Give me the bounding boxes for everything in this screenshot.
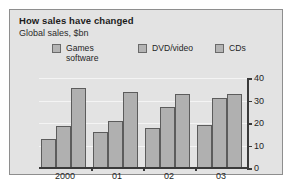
legend-swatch-icon — [138, 44, 147, 53]
y-axis-tick — [247, 123, 252, 125]
legend-label: CDs — [229, 43, 246, 53]
x-axis-tick-label: 01 — [93, 171, 141, 181]
bar-group — [93, 78, 141, 168]
y-axis-tick — [247, 78, 252, 80]
bar — [123, 92, 138, 169]
x-axis-tick-label: 02 — [145, 171, 193, 181]
bar-group — [197, 78, 245, 168]
bar-group — [145, 78, 193, 168]
x-axis-tick — [143, 167, 145, 171]
y-axis-tick-label: 30 — [254, 96, 264, 106]
bar — [108, 121, 123, 168]
legend-swatch-icon — [215, 44, 224, 53]
bar — [56, 126, 71, 168]
legend-item-games-software: Games software — [52, 43, 98, 63]
chart-legend: Games software DVD/video CDs — [52, 43, 278, 67]
chart-title: How sales have changed — [19, 15, 134, 26]
x-axis-tick-label: 03 — [197, 171, 245, 181]
bar — [197, 125, 212, 168]
bar — [41, 139, 56, 168]
y-axis-tick — [247, 101, 252, 103]
y-axis-tick — [247, 146, 252, 148]
bar-group — [41, 78, 89, 168]
y-axis-tick-label: 40 — [254, 73, 264, 83]
bar — [71, 88, 86, 168]
legend-item-dvd-video: DVD/video — [138, 43, 193, 53]
legend-item-cds: CDs — [215, 43, 246, 53]
bar — [227, 94, 242, 168]
y-axis-tick-label: 0 — [254, 163, 259, 173]
legend-swatch-icon — [52, 44, 61, 53]
bar — [145, 128, 160, 169]
x-axis-tick-label: 2000 — [41, 171, 89, 181]
bar — [93, 132, 108, 168]
bar-series-container — [39, 78, 247, 168]
chart-panel: How sales have changed Global sales, $bn… — [9, 9, 283, 175]
y-axis-tick-label: 20 — [254, 118, 264, 128]
chart-subtitle: Global sales, $bn — [19, 28, 89, 38]
x-axis-tick — [91, 167, 93, 171]
x-axis-tick — [195, 167, 197, 171]
legend-label: DVD/video — [152, 43, 193, 53]
y-axis-tick-label: 10 — [254, 141, 264, 151]
legend-label: Games software — [66, 43, 98, 63]
bar — [175, 94, 190, 168]
plot-area — [39, 78, 247, 168]
bar — [212, 98, 227, 168]
bar — [160, 107, 175, 168]
y-axis-tick — [247, 168, 252, 170]
